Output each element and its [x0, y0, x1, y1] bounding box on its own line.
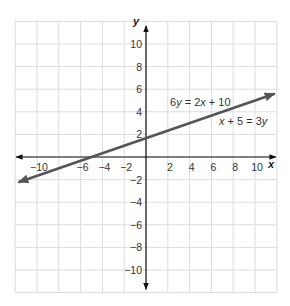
x-tick-label: 4	[189, 161, 195, 173]
y-tick-label: 8	[136, 61, 142, 73]
y-tick-label: 4	[136, 106, 142, 118]
plot-area: −10−6−4−2246810108642−2−4−6−8−10 x y 6y …	[0, 0, 290, 306]
x-tick-label: −2	[120, 161, 132, 173]
coordinate-plane-chart: −10−6−4−2246810108642−2−4−6−8−10 x y 6y …	[0, 0, 290, 306]
y-tick-label: −2	[130, 174, 142, 186]
x-tick-label: 6	[210, 161, 216, 173]
eq1-const: + 10	[206, 96, 231, 108]
equation-label-2: x + 5 = 3y	[218, 115, 269, 127]
y-tick-label: 6	[136, 83, 142, 95]
labels: x y 6y = 2x + 10 x + 5 = 3y	[132, 15, 275, 170]
x-tick-label: −10	[30, 161, 48, 173]
x-tick-label: 2	[167, 161, 173, 173]
y-tick-label: −6	[130, 219, 142, 231]
axes	[16, 26, 275, 289]
x-axis-label: x	[267, 158, 275, 170]
y-tick-label: −8	[130, 241, 142, 253]
y-tick-label: 10	[130, 38, 142, 50]
eq1-mid: = 2	[182, 96, 201, 108]
y-axis-label: y	[132, 15, 140, 27]
x-tick-label: 10	[251, 161, 263, 173]
y-tick-label: −4	[130, 196, 142, 208]
x-tick-label: −4	[98, 161, 110, 173]
x-tick-label: 8	[232, 161, 238, 173]
equation-label-1: 6y = 2x + 10	[170, 96, 231, 108]
eq2-var-y: y	[261, 115, 269, 127]
eq2-mid: + 5 = 3	[225, 115, 262, 127]
y-tick-label: −10	[124, 264, 142, 276]
